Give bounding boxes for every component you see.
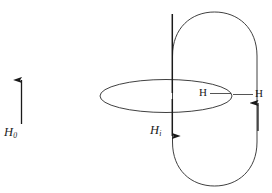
current-loop-ellipse-group <box>100 80 232 113</box>
label-h-inner: H <box>199 87 207 98</box>
label-hi: Hi <box>150 124 161 138</box>
label-h0-base: H <box>4 125 13 139</box>
label-h-outer: H <box>255 88 263 99</box>
diagram-canvas <box>0 0 272 193</box>
field-line-loop-path <box>173 12 258 186</box>
field-line-loop-group <box>173 12 258 186</box>
magnetic-field-diagram: H0 Hi H H <box>0 0 272 193</box>
label-h0: H0 <box>4 126 17 140</box>
label-hi-base: H <box>150 123 159 137</box>
label-h0-sub: 0 <box>13 131 17 140</box>
current-loop-ellipse <box>100 80 232 113</box>
label-hi-sub: i <box>159 129 161 138</box>
